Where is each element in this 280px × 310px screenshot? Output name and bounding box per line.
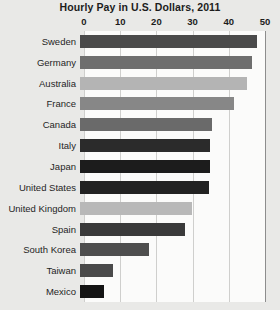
bar xyxy=(80,264,113,277)
category-label: Sweden xyxy=(0,36,80,47)
category-label: Spain xyxy=(0,224,80,235)
x-tick-label: 0 xyxy=(81,16,86,27)
category-label: France xyxy=(0,98,80,109)
bar-row: Canada xyxy=(0,114,280,135)
bar-track xyxy=(80,260,280,281)
bar xyxy=(80,202,192,215)
category-label: Japan xyxy=(0,161,80,172)
bar-track xyxy=(80,73,280,94)
x-tick-label: 50 xyxy=(260,16,271,27)
bar-row: Spain xyxy=(0,219,280,240)
bar xyxy=(80,181,209,194)
category-label: Australia xyxy=(0,78,80,89)
bar xyxy=(80,139,210,152)
category-label: Canada xyxy=(0,119,80,130)
bar-row: France xyxy=(0,94,280,115)
bar xyxy=(80,243,149,256)
bar-track xyxy=(80,219,280,240)
bar xyxy=(80,118,212,131)
bar-track xyxy=(80,281,280,302)
bar-track xyxy=(80,177,280,198)
bar-row: Germany xyxy=(0,52,280,73)
x-tick-label: 30 xyxy=(187,16,198,27)
bar-track xyxy=(80,52,280,73)
category-label: Mexico xyxy=(0,286,80,297)
bar-track xyxy=(80,198,280,219)
bar-track xyxy=(80,114,280,135)
bar xyxy=(80,35,257,48)
bar-chart: Hourly Pay in U.S. Dollars, 2011 0102030… xyxy=(0,0,280,310)
bar-row: South Korea xyxy=(0,239,280,260)
bar-track xyxy=(80,94,280,115)
x-tick-label: 10 xyxy=(115,16,126,27)
category-label: Italy xyxy=(0,140,80,151)
bar-track xyxy=(80,239,280,260)
x-tick-label: 20 xyxy=(151,16,162,27)
x-axis-tick-labels: 01020304050 xyxy=(0,16,280,30)
chart-title: Hourly Pay in U.S. Dollars, 2011 xyxy=(0,1,280,13)
bar-row: Mexico xyxy=(0,281,280,302)
bar xyxy=(80,160,210,173)
category-label: United Kingdom xyxy=(0,203,80,214)
bar-row: Japan xyxy=(0,156,280,177)
bar-rows: SwedenGermanyAustraliaFranceCanadaItalyJ… xyxy=(0,31,280,302)
bar xyxy=(80,97,234,110)
bar-row: Australia xyxy=(0,73,280,94)
bar-track xyxy=(80,135,280,156)
bar-row: Italy xyxy=(0,135,280,156)
bar-row: United States xyxy=(0,177,280,198)
bar xyxy=(80,285,104,298)
bar xyxy=(80,56,252,69)
bar xyxy=(80,77,247,90)
bar-track xyxy=(80,156,280,177)
bar-row: Sweden xyxy=(0,31,280,52)
bar-row: Taiwan xyxy=(0,260,280,281)
category-label: United States xyxy=(0,182,80,193)
category-label: South Korea xyxy=(0,244,80,255)
bar-track xyxy=(80,31,280,52)
category-label: Taiwan xyxy=(0,265,80,276)
bar xyxy=(80,223,185,236)
x-tick-label: 40 xyxy=(224,16,235,27)
category-label: Germany xyxy=(0,57,80,68)
bar-row: United Kingdom xyxy=(0,198,280,219)
